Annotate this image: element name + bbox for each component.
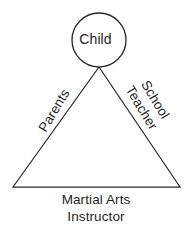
child-node-label-text: Child [79,31,111,47]
child-node-label: Child [0,31,192,47]
martial-arts-instructor-label: Martial Arts Instructor [0,192,192,225]
diagram-canvas: Child Parents School Teacher Martial Art… [0,0,192,240]
martial-arts-instructor-label-line-2: Instructor [0,209,192,226]
martial-arts-instructor-label-line-1: Martial Arts [0,192,192,209]
